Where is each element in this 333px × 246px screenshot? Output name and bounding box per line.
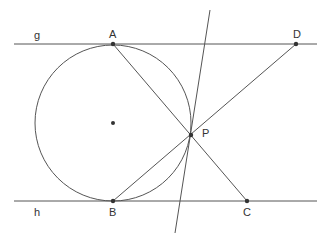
label-a: A: [109, 29, 116, 40]
segment-ac: [113, 44, 247, 201]
point-p: [189, 133, 193, 137]
label-c: C: [243, 207, 251, 218]
label-b: B: [109, 207, 116, 218]
point-c: [245, 199, 249, 203]
label-g: g: [34, 30, 40, 41]
label-p: P: [202, 128, 209, 139]
point-a: [111, 42, 115, 46]
transversal-line: [175, 10, 210, 233]
label-h: h: [34, 207, 40, 218]
point-b: [111, 199, 115, 203]
label-d: D: [293, 29, 301, 40]
point-d: [294, 42, 298, 46]
segment-bd: [113, 44, 296, 201]
circle-center: [111, 121, 115, 125]
geometry-figure: [0, 0, 333, 246]
